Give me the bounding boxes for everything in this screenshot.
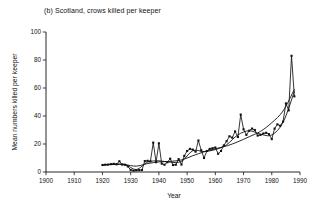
x-tick-labels: 1900191019201930194019501960197019801990 <box>39 177 308 184</box>
data-point-marker <box>118 160 120 162</box>
trend-curve <box>102 92 294 170</box>
data-point-marker <box>234 130 236 132</box>
tick-marks <box>43 32 300 175</box>
x-tick-label: 1960 <box>208 177 223 184</box>
data-point-marker <box>293 95 295 97</box>
y-tick-label: 0 <box>37 168 41 175</box>
data-point-marker <box>237 136 239 138</box>
data-point-marker <box>186 150 188 152</box>
data-point-marker <box>104 164 106 166</box>
data-point-marker <box>226 140 228 142</box>
data-point-marker <box>259 134 261 136</box>
data-point-marker <box>166 161 168 163</box>
data-point-marker <box>243 128 245 130</box>
data-point-marker <box>197 139 199 141</box>
data-point-marker <box>192 149 194 151</box>
data-point-marker <box>223 144 225 146</box>
y-tick-label: 100 <box>30 28 41 35</box>
data-point-marker <box>276 123 278 125</box>
data-point-marker <box>211 147 213 149</box>
data-point-marker <box>262 132 264 134</box>
x-tick-label: 1900 <box>39 177 54 184</box>
data-point-marker <box>113 163 115 165</box>
data-point-marker <box>172 164 174 166</box>
trend-curves <box>102 89 294 169</box>
x-tick-label: 1950 <box>180 177 195 184</box>
data-point-marker <box>138 169 140 171</box>
data-point-marker <box>217 153 219 155</box>
x-tick-label: 1910 <box>67 177 82 184</box>
data-point-marker <box>178 158 180 160</box>
x-axis-title: Year <box>167 192 181 199</box>
data-point-marker <box>183 155 185 157</box>
data-point-marker <box>248 130 250 132</box>
data-point-marker <box>268 133 270 135</box>
data-point-marker <box>231 137 233 139</box>
data-point-marker <box>130 169 132 171</box>
y-tick-label: 40 <box>34 112 42 119</box>
data-point-marker <box>121 164 123 166</box>
data-point-marker <box>279 125 281 127</box>
data-point-marker <box>163 164 165 166</box>
x-tick-label: 1940 <box>152 177 167 184</box>
y-tick-label: 20 <box>34 140 42 147</box>
data-point-marker <box>254 129 256 131</box>
data-point-marker <box>124 164 126 166</box>
axes <box>46 32 300 172</box>
data-point-marker <box>155 161 157 163</box>
data-point-marker <box>158 142 160 144</box>
y-tick-label: 60 <box>34 84 42 91</box>
x-tick-label: 1980 <box>265 177 280 184</box>
trend-curve <box>102 89 294 166</box>
data-point-marker <box>101 164 103 166</box>
data-point-marker <box>265 132 267 134</box>
data-point-marker <box>110 163 112 165</box>
data-point-marker <box>147 160 149 162</box>
data-point-marker <box>107 164 109 166</box>
data-point-marker <box>127 165 129 167</box>
y-tick-labels: 020406080100 <box>30 28 41 175</box>
x-tick-label: 1930 <box>124 177 139 184</box>
data-point-marker <box>141 169 143 171</box>
data-point-marker <box>288 109 290 111</box>
data-point-marker <box>271 138 273 140</box>
data-point-marker <box>161 163 163 165</box>
data-point-marker <box>132 170 134 172</box>
data-point-marker <box>144 160 146 162</box>
y-axis-title: Mean numbers killed per keeper <box>11 53 19 151</box>
data-point-marker <box>175 164 177 166</box>
data-point-marker <box>169 158 171 160</box>
data-point-marker <box>180 164 182 166</box>
data-point-marker <box>149 160 151 162</box>
data-point-marker <box>240 114 242 116</box>
data-point-marker <box>228 135 230 137</box>
data-point-marker <box>220 150 222 152</box>
data-point-marker <box>214 146 216 148</box>
y-tick-label: 80 <box>34 56 42 63</box>
data-point-marker <box>251 128 253 130</box>
chart-figure: (b) Scotland, crows killed per keeper 19… <box>0 0 313 207</box>
x-tick-label: 1920 <box>95 177 110 184</box>
data-point-marker <box>203 157 205 159</box>
data-point-marker <box>245 134 247 136</box>
data-point-marker <box>195 151 197 153</box>
data-point-marker <box>189 148 191 150</box>
chart-plot-area: 1900191019201930194019501960197019801990… <box>0 0 313 207</box>
data-point-marker <box>152 142 154 144</box>
data-point-marker <box>209 148 211 150</box>
data-point-marker <box>135 169 137 171</box>
data-point-marker <box>282 121 284 123</box>
data-point-marker <box>116 163 118 165</box>
data-point-marker <box>290 55 292 57</box>
data-point-marker <box>206 150 208 152</box>
x-tick-label: 1970 <box>237 177 252 184</box>
x-tick-label: 1990 <box>293 177 308 184</box>
data-point-marker <box>285 102 287 104</box>
data-point-marker <box>200 149 202 151</box>
data-point-marker <box>274 128 276 130</box>
data-point-marker <box>257 135 259 137</box>
